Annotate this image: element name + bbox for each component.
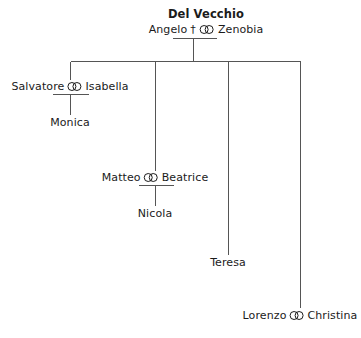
marriage-icon xyxy=(67,82,82,92)
marriage-icon xyxy=(200,25,215,35)
person-teresa[interactable]: Teresa xyxy=(210,256,246,269)
person-beatrice[interactable]: Beatrice xyxy=(162,171,209,184)
family-surname-label: Del Vecchio xyxy=(168,8,244,21)
person-angelo[interactable]: Angelo xyxy=(149,23,188,36)
person-lorenzo[interactable]: Lorenzo xyxy=(243,309,287,322)
person-monica[interactable]: Monica xyxy=(50,116,90,129)
person-isabella[interactable]: Isabella xyxy=(85,80,128,93)
family-tree-lines xyxy=(0,0,361,338)
deceased-icon: † xyxy=(190,23,197,36)
person-zenobia[interactable]: Zenobia xyxy=(218,23,263,36)
surname-text: Del Vecchio xyxy=(168,7,244,21)
person-nicola-label: Nicola xyxy=(138,207,172,220)
person-matteo[interactable]: Matteo xyxy=(102,171,141,184)
couple-salvatore-isabella[interactable]: Salvatore Isabella xyxy=(11,80,128,93)
person-christina[interactable]: Christina xyxy=(307,309,357,322)
marriage-icon xyxy=(144,173,159,183)
couple-matteo-beatrice[interactable]: Matteo Beatrice xyxy=(102,171,209,184)
marriage-icon xyxy=(289,311,304,321)
person-teresa-label: Teresa xyxy=(210,256,246,269)
couple-lorenzo-christina[interactable]: Lorenzo Christina xyxy=(243,309,358,322)
couple-angelo-zenobia[interactable]: Angelo † Zenobia xyxy=(149,23,264,36)
person-salvatore[interactable]: Salvatore xyxy=(11,80,64,93)
person-monica-label: Monica xyxy=(50,116,90,129)
person-nicola[interactable]: Nicola xyxy=(138,207,172,220)
